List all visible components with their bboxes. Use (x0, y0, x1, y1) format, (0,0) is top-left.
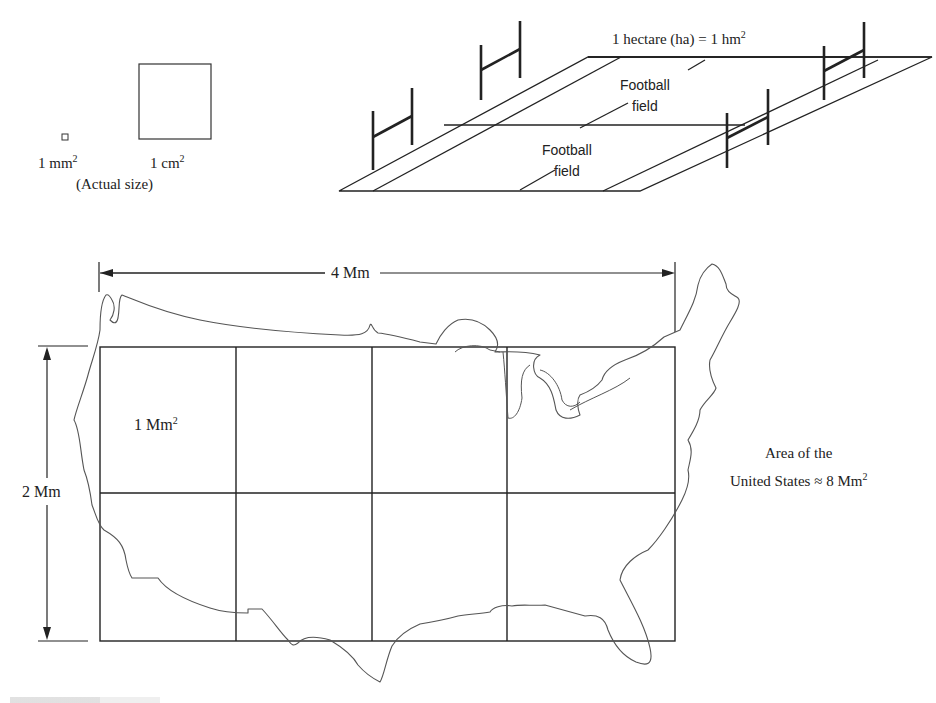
football-field-2-line2: field (542, 161, 592, 182)
cell-area-text: 1 Mm (134, 416, 173, 433)
us-outline (74, 264, 739, 682)
cropped-caption (10, 697, 160, 703)
cm2-text: 1 cm (150, 155, 180, 171)
football-field-1-line1: Football (620, 75, 670, 96)
cm2-square (139, 64, 211, 139)
football-field-1-label: Football field (620, 75, 670, 117)
mm2-square (62, 134, 68, 140)
us-area-line2-text: United States ≈ 8 Mm (730, 473, 862, 489)
height-dimension-label: 2 Mm (22, 483, 61, 501)
mm2-text: 1 mm (38, 155, 73, 171)
great-lakes (455, 346, 630, 419)
mm2-exponent: 2 (73, 153, 78, 164)
width-dimension-label: 4 Mm (331, 264, 370, 282)
hectare-exponent: 2 (741, 29, 746, 40)
cell-area-label: 1 Mm2 (134, 412, 178, 434)
hectare-label: 1 hectare (ha) = 1 hm2 (612, 26, 746, 48)
us-area-exponent: 2 (862, 471, 867, 482)
us-area-line2: United States ≈ 8 Mm2 (730, 465, 867, 493)
football-field-2-label: Football field (542, 140, 592, 182)
football-field-2-line1: Football (542, 140, 592, 161)
us-area-line1: Area of the (730, 441, 867, 465)
football-field-1-line2: field (620, 96, 670, 117)
cm2-exponent: 2 (180, 153, 185, 164)
us-area-annotation: Area of the United States ≈ 8 Mm2 (730, 441, 867, 493)
figure-artwork (0, 0, 936, 703)
mm2-label: 1 mm2 (38, 150, 78, 172)
cm2-label: 1 cm2 (150, 150, 185, 172)
actual-size-note: (Actual size) (76, 175, 153, 193)
cell-area-exponent: 2 (173, 415, 178, 426)
dimension-arrows (38, 262, 675, 641)
hectare-text: 1 hectare (ha) = 1 hm (612, 31, 741, 47)
